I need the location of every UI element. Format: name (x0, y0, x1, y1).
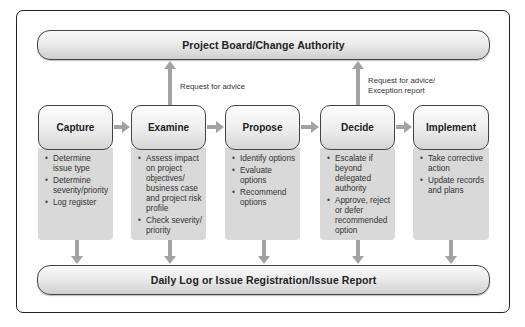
note-line-1: Request for advice/ (368, 76, 435, 86)
list-item: Escalate if beyond delegated authority (335, 154, 391, 194)
arrow-capture-to-log (75, 240, 79, 257)
list-item: Determine severity/priority (53, 176, 109, 196)
arrow-examine-to-board (168, 68, 172, 105)
project-board-label: Project Board/Change Authority (182, 39, 344, 51)
note-line-2: Exception report (368, 86, 435, 96)
stage-propose: Propose (225, 105, 300, 150)
list-item: Determine issue type (53, 154, 109, 174)
list-item: Evaluate options (240, 166, 296, 186)
list-item: Log register (53, 198, 109, 208)
list-item: Update records and plans (428, 176, 485, 196)
list-item: Check severity/ priority (146, 216, 202, 236)
arrow-propose-to-log (262, 240, 266, 257)
arrow-decide-to-board (356, 68, 360, 105)
stage-implement-title: Implement (426, 122, 476, 133)
note-exception-report: Request for advice/ Exception report (368, 76, 435, 96)
stage-examine: Examine (131, 105, 206, 150)
stage-capture: Capture (38, 105, 113, 150)
list-item: Take corrective action (428, 154, 485, 174)
stage-propose-title: Propose (242, 122, 282, 133)
list-item: Approve, reject or defer recommended opt… (335, 196, 391, 236)
note-request-for-advice: Request for advice (180, 82, 245, 92)
stage-examine-details: Assess impact on project objectives/ bus… (131, 148, 206, 240)
stage-examine-title: Examine (148, 122, 189, 133)
stage-implement-details: Take corrective action Update records an… (413, 148, 489, 240)
arrow-capture-to-examine (114, 125, 123, 129)
list-item: Recommend options (240, 188, 296, 208)
arrow-decide-to-implement (396, 125, 405, 129)
stage-capture-title: Capture (57, 122, 95, 133)
project-board-bar: Project Board/Change Authority (37, 30, 490, 60)
arrow-implement-to-log (449, 240, 453, 257)
daily-log-label: Daily Log or Issue Registration/Issue Re… (151, 274, 377, 286)
arrow-propose-to-decide (301, 125, 312, 129)
daily-log-bar: Daily Log or Issue Registration/Issue Re… (37, 265, 490, 295)
stage-decide: Decide (320, 105, 395, 150)
arrow-examine-to-log (168, 240, 172, 257)
list-item: Identify options (240, 154, 296, 164)
stage-implement: Implement (413, 105, 489, 150)
stage-propose-details: Identify options Evaluate options Recomm… (225, 148, 300, 240)
stage-capture-details: Determine issue type Determine severity/… (38, 148, 113, 240)
arrow-examine-to-propose (207, 125, 217, 129)
stage-decide-details: Escalate if beyond delegated authority A… (320, 148, 395, 240)
stage-decide-title: Decide (341, 122, 374, 133)
list-item: Assess impact on project objectives/ bus… (146, 154, 202, 214)
arrow-decide-to-log (356, 240, 360, 257)
